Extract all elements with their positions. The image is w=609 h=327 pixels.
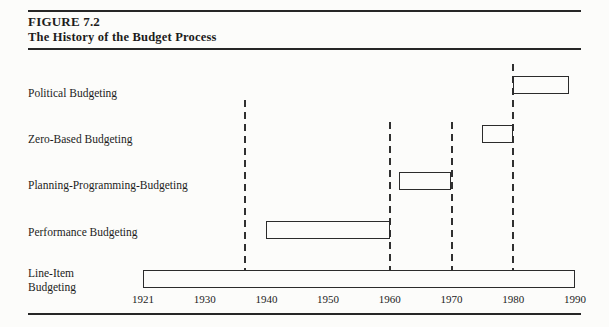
header-bottom-rule <box>28 48 581 50</box>
timeline-bar <box>513 76 569 94</box>
axis-year-label: 1950 <box>317 293 339 305</box>
era-boundary-dashed-line <box>451 122 453 270</box>
axis-year-label: 1921 <box>132 293 154 305</box>
era-boundary-dashed-line <box>244 100 246 270</box>
axis-year-label: 1990 <box>564 293 586 305</box>
axis-year-label: 1930 <box>194 293 216 305</box>
figure-page: FIGURE 7.2 The History of the Budget Pro… <box>0 0 609 327</box>
figure-bottom-rule <box>28 313 581 315</box>
timeline-bar <box>266 221 389 239</box>
axis-year-label: 1970 <box>441 293 463 305</box>
era-boundary-dashed-line <box>512 64 514 270</box>
figure-title: The History of the Budget Process <box>28 30 217 45</box>
row-label: Line-Item Budgeting <box>28 266 76 294</box>
timeline-bar <box>143 270 575 288</box>
axis-year-label: 1940 <box>255 293 277 305</box>
timeline-bar <box>399 172 451 190</box>
axis-year-label: 1980 <box>502 293 524 305</box>
axis-year-label: 1960 <box>379 293 401 305</box>
timeline-bar <box>482 125 513 143</box>
row-label: Political Budgeting <box>28 86 117 100</box>
era-boundary-dashed-line <box>389 122 391 270</box>
row-label: Performance Budgeting <box>28 225 138 239</box>
row-label: Zero-Based Budgeting <box>28 132 132 146</box>
figure-number: FIGURE 7.2 <box>28 14 100 30</box>
row-label: Planning-Programming-Budgeting <box>28 178 188 192</box>
header-top-rule <box>28 10 581 12</box>
